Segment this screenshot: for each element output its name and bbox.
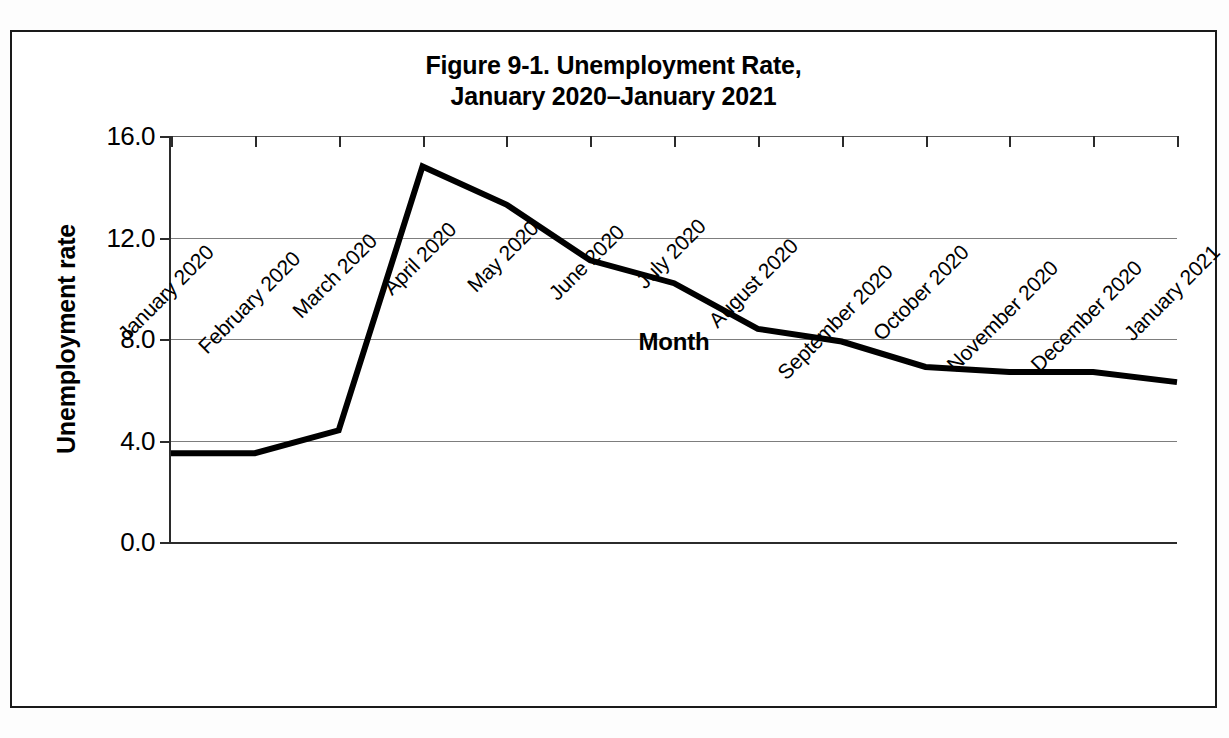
chart-title-line-2: January 2020–January 2021: [12, 81, 1215, 112]
y-axis-tick-label-0.0: 0.0: [35, 527, 155, 558]
x-axis-title: Month: [171, 328, 1177, 356]
figure-border: Figure 9-1. Unemployment Rate, January 2…: [10, 30, 1217, 708]
chart-title: Figure 9-1. Unemployment Rate, January 2…: [12, 50, 1215, 111]
plot-area: Unemployment rate 16.012.08.04.00.0 Janu…: [169, 136, 1177, 544]
y-axis-tick-mark-0.0: [160, 542, 171, 544]
chart-title-line-1: Figure 9-1. Unemployment Rate,: [12, 50, 1215, 81]
y-axis-tick-mark-16.0: [160, 136, 171, 138]
y-axis-tick-label-16.0: 16.0: [35, 121, 155, 152]
y-axis-tick-mark-12.0: [160, 238, 171, 240]
figure-page: Figure 9-1. Unemployment Rate, January 2…: [0, 0, 1229, 738]
y-axis-tick-label-12.0: 12.0: [35, 222, 155, 253]
y-axis-tick-label-4.0: 4.0: [35, 425, 155, 456]
y-axis-tick-mark-8.0: [160, 339, 171, 341]
y-axis-tick-mark-4.0: [160, 441, 171, 443]
x-axis-tick-mark-12: [1177, 136, 1179, 147]
